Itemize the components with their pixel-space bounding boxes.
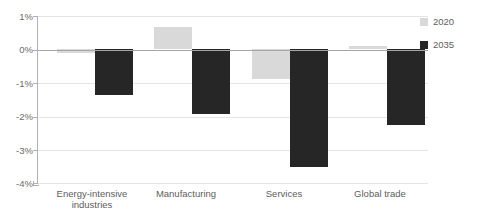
y-axis-label: -2% bbox=[3, 112, 33, 121]
x-axis-category-line: Services bbox=[266, 188, 302, 199]
x-axis-category-line: industries bbox=[72, 199, 113, 210]
y-axis-labels: 1% 0% -1% -2% -3% -4% bbox=[0, 0, 33, 223]
legend-swatch-icon bbox=[420, 18, 428, 26]
y-axis-label: 1% bbox=[3, 12, 33, 21]
legend-label: 2020 bbox=[433, 17, 454, 27]
gridline-minus2 bbox=[38, 117, 428, 118]
bar-chart: scenario in 2035 1% 0% -1% -2% -3% -4% E… bbox=[0, 0, 479, 223]
gridline-1 bbox=[38, 16, 428, 17]
legend-label: 2035 bbox=[433, 40, 454, 50]
bar-2020-1[interactable] bbox=[154, 27, 192, 50]
x-axis-category-line: Energy-intensive bbox=[57, 188, 128, 199]
legend-item-2035[interactable]: 2035 bbox=[420, 37, 479, 53]
bar-2020-2[interactable] bbox=[252, 49, 290, 79]
y-axis-label: -4% bbox=[3, 179, 33, 188]
x-axis-labels: Energy-intensive industries Manufacturin… bbox=[38, 188, 428, 222]
y-axis-label: 0% bbox=[3, 45, 33, 54]
x-axis-category-label: Global trade bbox=[326, 188, 434, 199]
plot-area bbox=[38, 16, 428, 183]
legend-swatch-icon bbox=[420, 41, 428, 49]
gridline-minus4 bbox=[38, 183, 428, 184]
x-axis-category-label: Services bbox=[230, 188, 338, 199]
y-axis-label: -3% bbox=[3, 146, 33, 155]
chart-title: scenario in 2035 bbox=[70, 0, 310, 1]
legend-item-2020[interactable]: 2020 bbox=[420, 14, 479, 30]
x-axis-category-label: Manufacturing bbox=[132, 188, 240, 199]
x-axis-category-label: Energy-intensive industries bbox=[38, 188, 146, 210]
bar-2035-1[interactable] bbox=[192, 49, 230, 113]
bar-2035-0[interactable] bbox=[95, 49, 133, 95]
bar-2035-2[interactable] bbox=[290, 49, 328, 167]
gridline-zero bbox=[38, 50, 428, 51]
gridline-minus3 bbox=[38, 150, 428, 151]
bar-2035-3[interactable] bbox=[387, 49, 425, 124]
x-axis-category-line: Global trade bbox=[354, 188, 406, 199]
chart-legend: 2020 2035 bbox=[420, 14, 479, 60]
y-axis-label: -1% bbox=[3, 79, 33, 88]
bar-2020-3[interactable] bbox=[349, 46, 387, 49]
x-axis-category-line: Manufacturing bbox=[156, 188, 216, 199]
